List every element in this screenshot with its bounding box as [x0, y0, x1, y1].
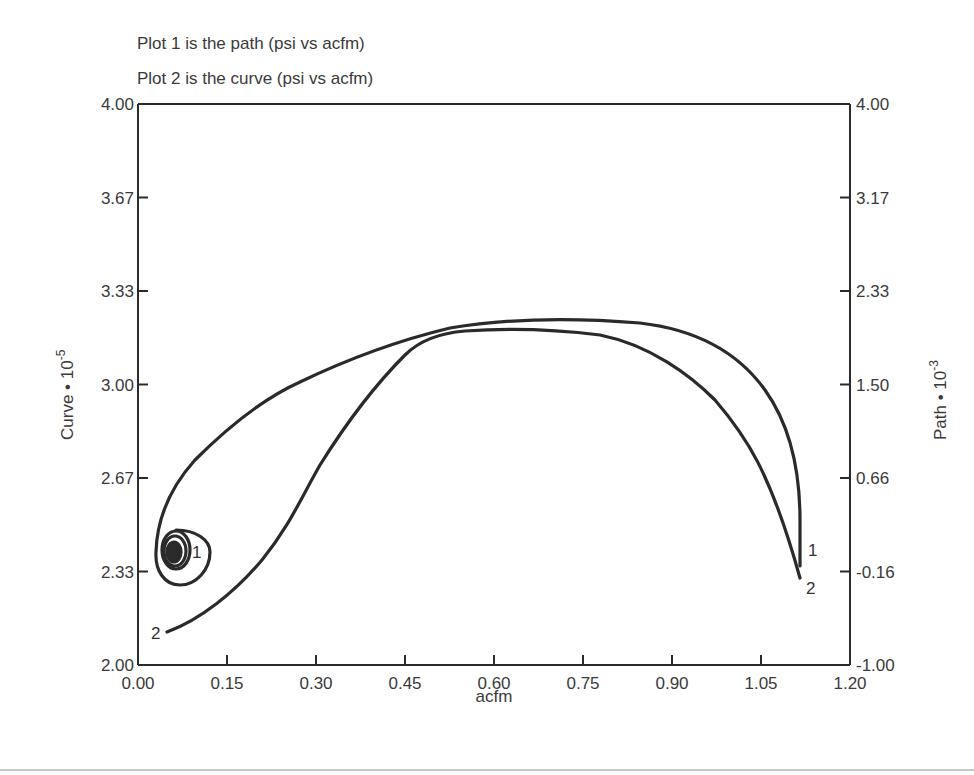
- x-tick-label: 1.20: [833, 674, 866, 693]
- x-tick-label: 0.15: [210, 674, 243, 693]
- svg-text:Path • 10-3: Path • 10-3: [927, 360, 950, 440]
- right-y-tick-label: 0.66: [856, 469, 889, 488]
- right-y-tick-label: 4.00: [856, 95, 889, 114]
- x-axis-title: acfm: [476, 687, 513, 706]
- right-y-axis-title: Path • 10-3: [927, 360, 950, 440]
- left-y-tick-label: 2.00: [101, 656, 134, 675]
- curve-label-1-right: 1: [808, 541, 817, 560]
- right-y-tick-label: 1.50: [856, 376, 889, 395]
- left-y-tick-label: 3.00: [101, 376, 134, 395]
- x-tick-label: 0.45: [388, 674, 421, 693]
- curve-label-1-left: 1: [192, 543, 201, 562]
- x-tick-label: 0.30: [299, 674, 332, 693]
- x-tick-label: 0.00: [121, 674, 154, 693]
- left-y-axis-label: Curve • 10: [58, 360, 77, 440]
- x-tick-label: 0.90: [655, 674, 688, 693]
- right-y-axis-exponent: -3: [927, 360, 941, 371]
- right-y-axis-label: Path • 10: [931, 371, 950, 440]
- chart: 0.000.150.300.450.600.750.901.051.20 2.0…: [0, 0, 974, 775]
- right-y-tick-label: -1.00: [856, 656, 895, 675]
- left-y-axis-ticks: 2.002.332.673.003.333.674.00: [101, 95, 148, 675]
- right-y-tick-label: -0.16: [856, 563, 895, 582]
- left-y-axis-exponent: -5: [54, 349, 68, 360]
- svg-text:Curve • 10-5: Curve • 10-5: [54, 349, 77, 440]
- x-tick-label: 0.75: [566, 674, 599, 693]
- x-tick-label: 1.05: [744, 674, 777, 693]
- right-y-axis-ticks: -1.00-0.160.661.502.333.174.00: [840, 95, 895, 675]
- curve-label-2-left: 2: [151, 624, 160, 643]
- series-2-curve: [167, 330, 800, 632]
- curve-label-2-right: 2: [806, 579, 815, 598]
- left-y-axis-title: Curve • 10-5: [54, 349, 77, 440]
- left-y-tick-label: 3.33: [101, 282, 134, 301]
- right-y-tick-label: 3.17: [856, 189, 889, 208]
- series-1-path: [156, 320, 800, 585]
- left-y-tick-label: 2.33: [101, 563, 134, 582]
- left-y-tick-label: 3.67: [101, 189, 134, 208]
- left-y-tick-label: 2.67: [101, 469, 134, 488]
- left-y-tick-label: 4.00: [101, 95, 134, 114]
- bottom-divider: [0, 769, 974, 771]
- right-y-tick-label: 2.33: [856, 282, 889, 301]
